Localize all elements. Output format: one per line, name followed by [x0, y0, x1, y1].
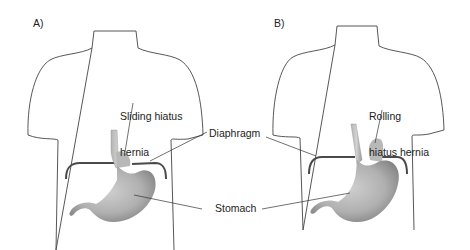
sliding-hernia-label-line1: Sliding hiatus	[120, 110, 182, 122]
panel-label-b: B)	[274, 17, 285, 29]
rolling-hernia-label: Rolling hiatus hernia	[369, 86, 429, 170]
sliding-hernia-label-line2: hernia	[120, 146, 182, 158]
rolling-hernia-label-line2: hiatus hernia	[369, 146, 429, 158]
stomach-label: Stomach	[215, 202, 256, 214]
diaphragm-label: Diaphragm	[209, 127, 260, 139]
stomach-a	[69, 166, 155, 222]
diaphragm-b	[309, 157, 355, 174]
diaphragm-a	[66, 163, 116, 179]
rolling-hernia-label-line1: Rolling	[369, 110, 429, 122]
panel-label-a: A)	[33, 17, 44, 29]
sliding-hernia-label: Sliding hiatus hernia	[120, 86, 182, 170]
